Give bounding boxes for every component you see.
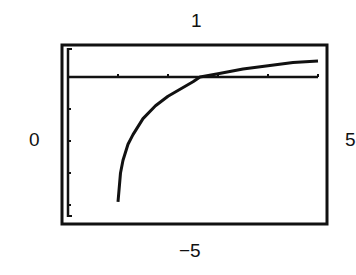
function-curve (118, 61, 318, 202)
axes (68, 48, 318, 217)
screen-frame (62, 45, 327, 224)
